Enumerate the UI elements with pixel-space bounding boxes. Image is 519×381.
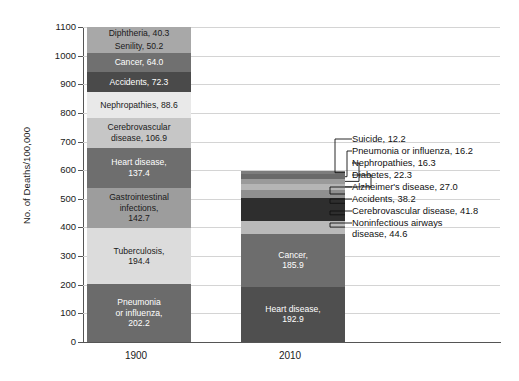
y-tick-label: 400 <box>36 221 76 232</box>
y-tick-label: 0 <box>36 336 76 347</box>
y-tick-label: 200 <box>36 279 76 290</box>
stacked-bar-chart: No. of Deaths/100,000 010020030040050060… <box>0 0 519 381</box>
y-tick-label: 1100 <box>36 21 76 32</box>
y-tick-label: 100 <box>36 307 76 318</box>
callout-label: Suicide, 12.2 <box>352 134 406 146</box>
y-axis-title: No. of Deaths/100,000 <box>21 96 32 256</box>
callout-label: Nephropathies, 16.3 <box>352 158 436 170</box>
bar-segment-label: Cancer, 64.0 <box>87 57 191 68</box>
bar-segment[interactable]: Tuberculosis, 194.4 <box>87 228 191 284</box>
bar-segment[interactable] <box>241 174 345 179</box>
bar-segment[interactable]: Accidents, 72.3 <box>87 72 191 93</box>
x-tick-label-1900: 1900 <box>76 350 196 361</box>
bar-segment[interactable] <box>241 198 345 209</box>
bar-segment[interactable] <box>241 184 345 190</box>
bar-segment-label: Heart disease, 192.9 <box>241 304 345 325</box>
bar-segment[interactable]: Heart disease, 137.4 <box>87 148 191 187</box>
bar-segment[interactable] <box>241 171 345 174</box>
y-tick-label: 800 <box>36 107 76 118</box>
bar-segment[interactable] <box>241 179 345 184</box>
callout-label: Diabetes, 22.3 <box>352 170 412 182</box>
bar-segment[interactable] <box>241 209 345 221</box>
bar-segment-label: Accidents, 72.3 <box>87 77 191 88</box>
callout-label: Noninfectious airways disease, 44.6 <box>352 218 442 241</box>
callout-label: Cerebrovascular disease, 41.8 <box>352 206 478 218</box>
bar-segment[interactable]: Nephropathies, 88.6 <box>87 92 191 117</box>
bar-segment[interactable]: Cerebrovascular disease, 106.9 <box>87 118 191 149</box>
bar-segment[interactable] <box>241 221 345 234</box>
x-axis-line <box>83 342 501 343</box>
bar-segment-label: Heart disease, 137.4 <box>87 157 191 178</box>
bar-segment-label: Nephropathies, 88.6 <box>87 100 191 111</box>
bar-segment-label: Cancer, 185.9 <box>241 250 345 271</box>
bar-segment[interactable]: Gastrointestinal infections, 142.7 <box>87 188 191 229</box>
callout-label: Accidents, 38.2 <box>352 194 416 206</box>
bar-segment[interactable]: Heart disease, 192.9 <box>241 287 345 342</box>
bar-segment[interactable]: Cancer, 185.9 <box>241 234 345 287</box>
bar-segment-label: Diphtheria, 40.3 <box>87 28 191 39</box>
bar-segment-label: Senility, 50.2 <box>87 41 191 52</box>
y-tick-label: 300 <box>36 250 76 261</box>
y-tick-label: 600 <box>36 164 76 175</box>
callout-label: Pneumonia or influenza, 16.2 <box>352 146 473 158</box>
bar-segment[interactable]: Diphtheria, 40.3 <box>87 27 191 39</box>
bar-segment-label: Tuberculosis, 194.4 <box>87 246 191 267</box>
y-tick-label: 1000 <box>36 50 76 61</box>
y-tick-label: 900 <box>36 78 76 89</box>
bar-segment[interactable] <box>241 190 345 198</box>
y-tick-label: 700 <box>36 136 76 147</box>
bar-segment-label: Pneumonia or influenza, 202.2 <box>87 297 191 329</box>
bar-segment[interactable]: Cancer, 64.0 <box>87 53 191 71</box>
callout-label: Alzheimer's disease, 27.0 <box>352 182 458 194</box>
x-tick-label-2010: 2010 <box>230 350 350 361</box>
bar-segment[interactable]: Senility, 50.2 <box>87 39 191 53</box>
bar-segment-label: Cerebrovascular disease, 106.9 <box>87 122 191 143</box>
bar-segment-label: Gastrointestinal infections, 142.7 <box>87 192 191 224</box>
bar-segment[interactable]: Pneumonia or influenza, 202.2 <box>87 284 191 342</box>
y-tick-label: 500 <box>36 193 76 204</box>
